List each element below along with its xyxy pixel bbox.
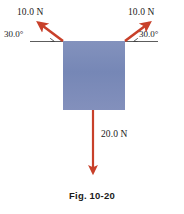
angle-tick-right [134,38,138,41]
figure-caption: Fig. 10-20 [0,190,184,201]
angle-tick-left [50,38,54,41]
force-label-weight: 20.0 N [101,129,127,139]
force-label-right: 10.0 N [128,7,154,17]
physics-force-diagram: 10.0 N 10.0 N 30.0° 30.0° 20.0 N Fig. 10… [0,0,184,214]
angle-label-left: 30.0° [4,29,23,39]
block [63,41,125,110]
angle-label-right: 30.0° [139,29,158,39]
force-label-left: 10.0 N [17,7,43,17]
